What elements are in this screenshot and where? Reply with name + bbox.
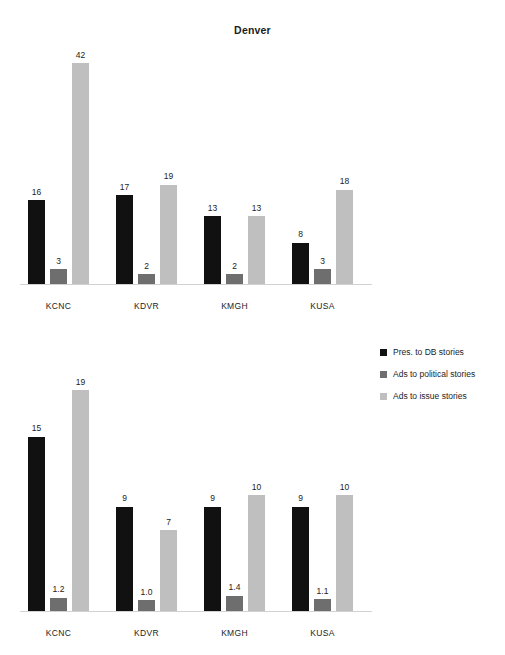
x-axis-category-label: KUSA <box>310 628 334 638</box>
bar-value-label: 1.0 <box>141 588 153 597</box>
bar[interactable] <box>72 63 89 285</box>
bar-value-label: 16 <box>32 188 41 197</box>
bar-value-label: 19 <box>164 172 173 181</box>
bar-slot: 18 <box>336 45 353 285</box>
bar-value-label: 13 <box>252 204 261 213</box>
bar-slot: 2 <box>138 45 155 285</box>
plot-area-top: 1634217219132138318 <box>20 45 372 285</box>
x-axis-line-top <box>20 284 372 285</box>
bar[interactable] <box>116 195 133 285</box>
bar[interactable] <box>160 530 177 612</box>
chart-page: Denver 1634217219132138318 KCNCKDVRKMGHK… <box>0 0 505 655</box>
bar[interactable] <box>204 507 221 612</box>
bar-slot: 1.1 <box>314 372 331 612</box>
legend-swatch-icon <box>380 349 387 356</box>
x-axis-category-label: KMGH <box>221 628 248 638</box>
bar-value-label: 1.1 <box>317 587 329 596</box>
bar-group-kcnc: 151.219 <box>28 372 89 612</box>
bar-slot: 13 <box>248 45 265 285</box>
bar-group-kcnc: 16342 <box>28 45 89 285</box>
bar-slot: 1.0 <box>138 372 155 612</box>
bar-group-kmgh: 13213 <box>204 45 265 285</box>
legend-item-label: Ads to political stories <box>393 369 475 379</box>
chart-panel-top: 1634217219132138318 KCNCKDVRKMGHKUSA <box>20 45 372 313</box>
bar[interactable] <box>116 507 133 612</box>
x-axis-line-bottom <box>20 611 372 612</box>
chart-legend: Pres. to DB stories Ads to political sto… <box>380 341 500 407</box>
bar[interactable] <box>248 495 265 612</box>
bar[interactable] <box>160 185 177 285</box>
bar[interactable] <box>28 200 45 285</box>
bar-value-label: 10 <box>252 483 261 492</box>
bar-slot: 17 <box>116 45 133 285</box>
legend-item-label: Ads to issue stories <box>393 391 467 401</box>
bar-value-label: 18 <box>340 177 349 186</box>
bar-value-label: 9 <box>298 494 303 503</box>
x-axis-category-label: KMGH <box>221 301 248 311</box>
x-axis-category-label: KCNC <box>46 628 71 638</box>
bar-slot: 9 <box>292 372 309 612</box>
x-axis-category-label: KDVR <box>134 301 159 311</box>
bar-slot: 9 <box>204 372 221 612</box>
bar-slot: 15 <box>28 372 45 612</box>
bar-value-label: 10 <box>340 483 349 492</box>
legend-item[interactable]: Ads to issue stories <box>380 385 500 407</box>
bar-value-label: 42 <box>76 51 85 60</box>
bar[interactable] <box>248 216 265 285</box>
bar[interactable] <box>292 507 309 612</box>
legend-swatch-icon <box>380 371 387 378</box>
bar-slot: 1.4 <box>226 372 243 612</box>
bar[interactable] <box>204 216 221 285</box>
bar-slot: 10 <box>248 372 265 612</box>
bar-slot: 13 <box>204 45 221 285</box>
bar-value-label: 7 <box>166 518 171 527</box>
bar-value-label: 19 <box>76 378 85 387</box>
bar-value-label: 3 <box>320 257 325 266</box>
chart-panel-bottom: 151.21991.0791.41091.110 KCNCKDVRKMGHKUS… <box>20 372 372 640</box>
bar-value-label: 3 <box>56 257 61 266</box>
legend-item-label: Pres. to DB stories <box>393 347 464 357</box>
bar-slot: 1.2 <box>50 372 67 612</box>
bar-group-kusa: 91.110 <box>292 372 353 612</box>
bar[interactable] <box>50 598 67 612</box>
bar-value-label: 15 <box>32 424 41 433</box>
bar-value-label: 13 <box>208 204 217 213</box>
bar-value-label: 2 <box>232 262 237 271</box>
bar[interactable] <box>226 596 243 612</box>
bar-value-label: 9 <box>122 494 127 503</box>
plot-area-bottom: 151.21991.0791.41091.110 <box>20 372 372 612</box>
legend-item[interactable]: Ads to political stories <box>380 363 500 385</box>
legend-item[interactable]: Pres. to DB stories <box>380 341 500 363</box>
bar-slot: 8 <box>292 45 309 285</box>
bar[interactable] <box>314 269 331 285</box>
bar-slot: 3 <box>50 45 67 285</box>
bar[interactable] <box>28 437 45 612</box>
bar-slot: 2 <box>226 45 243 285</box>
bar-group-kdvr: 91.07 <box>116 372 177 612</box>
bar[interactable] <box>50 269 67 285</box>
x-axis-category-label: KDVR <box>134 628 159 638</box>
bar-group-kdvr: 17219 <box>116 45 177 285</box>
x-axis-category-label: KUSA <box>310 301 334 311</box>
bar-group-kmgh: 91.410 <box>204 372 265 612</box>
bar[interactable] <box>292 243 309 285</box>
x-axis-category-label: KCNC <box>46 301 71 311</box>
bar-value-label: 17 <box>120 183 129 192</box>
bar-value-label: 1.2 <box>53 585 65 594</box>
bar-slot: 10 <box>336 372 353 612</box>
bar-slot: 9 <box>116 372 133 612</box>
bar-value-label: 8 <box>298 230 303 239</box>
bar[interactable] <box>336 190 353 285</box>
legend-swatch-icon <box>380 393 387 400</box>
bar[interactable] <box>72 390 89 612</box>
bar-slot: 7 <box>160 372 177 612</box>
bar-slot: 19 <box>160 45 177 285</box>
page-title: Denver <box>0 24 505 36</box>
bar-slot: 42 <box>72 45 89 285</box>
bar-slot: 19 <box>72 372 89 612</box>
bar-slot: 16 <box>28 45 45 285</box>
bar-value-label: 2 <box>144 262 149 271</box>
bar-slot: 3 <box>314 45 331 285</box>
bar[interactable] <box>336 495 353 612</box>
bar-value-label: 1.4 <box>229 583 241 592</box>
